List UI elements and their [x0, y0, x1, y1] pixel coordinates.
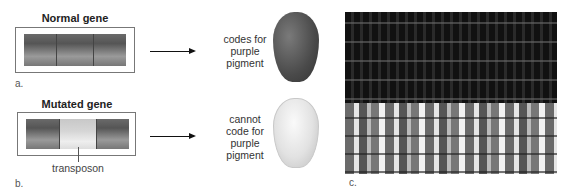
white-kernel-image — [273, 98, 319, 168]
corn-cob-photo — [345, 12, 557, 174]
segment-divider — [93, 34, 94, 66]
panel-b-label: b. — [15, 178, 23, 189]
panel-a-label: a. — [15, 78, 23, 89]
mutated-outcome-text: cannot code for purple pigment — [210, 113, 280, 161]
segment-divider — [56, 34, 57, 66]
segment-divider — [59, 119, 60, 149]
mutated-gene-diagram — [17, 112, 136, 156]
exon-right — [96, 119, 129, 149]
normal-gene-diagram — [15, 27, 135, 73]
normal-gene-title: Normal gene — [15, 12, 135, 24]
exon-left — [24, 34, 126, 66]
segment-divider — [96, 119, 97, 149]
arrow-right-icon — [150, 136, 194, 137]
transposon-pointer-line — [78, 147, 79, 162]
mutated-gene-title: Mutated gene — [17, 98, 137, 110]
normal-outcome-text: codes for purple pigment — [210, 33, 280, 69]
transposon-insert — [59, 119, 96, 149]
exon-left — [26, 119, 59, 149]
purple-kernel-image — [273, 12, 319, 82]
panel-c-label: c. — [349, 177, 357, 188]
arrow-right-icon — [150, 51, 194, 52]
dark-kernels-region — [345, 12, 557, 103]
transposon-label: transposon — [52, 162, 104, 174]
variegated-kernels-region — [345, 103, 557, 174]
